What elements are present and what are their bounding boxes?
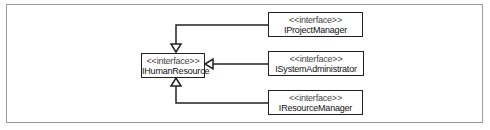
interface-name: ISystemAdministrator [269, 64, 363, 74]
connector-resource-manager [176, 86, 268, 103]
generalization-arrow-icon [171, 78, 181, 86]
interface-box-iprojectmanager: <<interface>> IProjectManager [268, 12, 363, 37]
stereotype-label: <<interface>> [269, 54, 363, 64]
interface-name: IHumanResource [142, 66, 204, 76]
connector-project-manager [176, 25, 268, 44]
interface-name: IProjectManager [269, 25, 362, 35]
interface-box-ihumanresource: <<interface>> IHumanResource [141, 53, 205, 78]
stereotype-label: <<interface>> [142, 56, 204, 66]
interface-box-iresourcemanager: <<interface>> IResourceManager [268, 90, 363, 115]
stereotype-label: <<interface>> [269, 15, 362, 25]
interface-box-isystemadministrator: <<interface>> ISystemAdministrator [268, 51, 364, 76]
interface-name: IResourceManager [269, 103, 362, 113]
generalization-arrow-icon [171, 44, 181, 52]
stereotype-label: <<interface>> [269, 93, 362, 103]
connector-lines [0, 0, 490, 130]
